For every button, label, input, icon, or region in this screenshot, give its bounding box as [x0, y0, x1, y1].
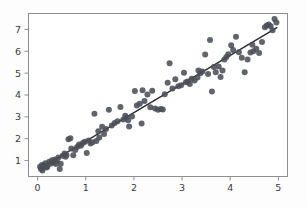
data-point: [126, 123, 132, 129]
data-point: [242, 69, 248, 75]
data-point: [103, 126, 109, 132]
data-point: [115, 118, 121, 124]
data-point: [144, 92, 150, 98]
data-point: [53, 161, 59, 167]
data-point: [205, 71, 211, 77]
data-point: [213, 69, 219, 75]
data-point: [95, 128, 101, 134]
data-point: [195, 68, 201, 74]
data-point: [172, 76, 178, 82]
x-tick-label: 3: [179, 182, 185, 193]
data-point: [220, 68, 226, 74]
y-tick-label: 4: [15, 89, 21, 100]
data-point: [273, 19, 279, 25]
data-point: [132, 88, 138, 94]
y-tick-label: 7: [15, 24, 21, 35]
data-point: [70, 152, 76, 158]
data-point: [91, 111, 97, 117]
x-tick-label: 1: [83, 182, 89, 193]
y-tick-label: 1: [15, 155, 21, 166]
data-point: [218, 74, 224, 80]
y-tick-label: 6: [15, 46, 21, 57]
data-point: [57, 166, 63, 172]
x-tick-label: 4: [227, 182, 233, 193]
scatter-plot-figure: 012345 1234567: [0, 0, 307, 207]
y-tick-label: 5: [15, 68, 21, 79]
y-tick-label: 2: [15, 133, 21, 144]
data-point: [142, 98, 148, 104]
x-tick-label: 5: [275, 182, 281, 193]
data-point: [139, 120, 145, 126]
data-point: [256, 50, 262, 56]
data-point: [129, 113, 135, 119]
data-point: [149, 88, 155, 94]
data-point: [67, 135, 73, 141]
x-tick-label: 0: [35, 182, 41, 193]
data-point: [106, 107, 112, 113]
data-point: [230, 47, 236, 53]
data-point: [167, 60, 173, 66]
data-point: [187, 81, 193, 87]
data-point: [233, 34, 239, 40]
data-point: [160, 106, 166, 112]
data-point: [140, 87, 146, 93]
data-point: [236, 49, 242, 55]
data-point: [225, 51, 231, 57]
data-point: [84, 150, 90, 156]
data-point: [117, 104, 123, 110]
plot-canvas: 012345 1234567: [0, 0, 307, 207]
data-point: [249, 42, 255, 48]
data-point: [207, 37, 213, 43]
data-point: [43, 165, 49, 171]
data-point: [239, 55, 245, 61]
data-point: [209, 89, 215, 95]
data-point: [245, 57, 251, 63]
data-point: [165, 80, 171, 86]
data-point: [162, 91, 168, 97]
data-point: [181, 70, 187, 76]
x-tick-label: 2: [131, 182, 137, 193]
data-point: [96, 134, 102, 140]
data-point: [169, 85, 175, 91]
data-point: [63, 154, 69, 160]
y-tick-label: 3: [15, 111, 21, 122]
data-point: [202, 52, 208, 58]
data-point: [259, 39, 265, 45]
data-point: [270, 27, 276, 33]
